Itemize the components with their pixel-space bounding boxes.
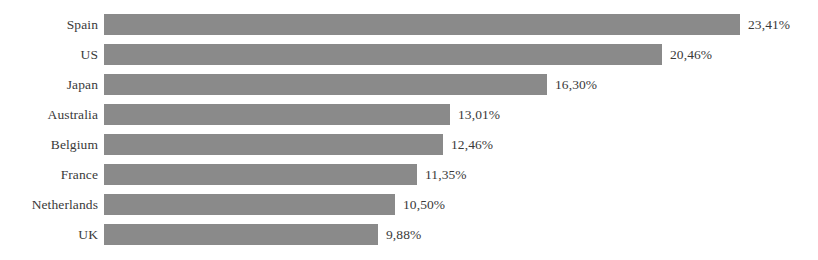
category-label-netherlands: Netherlands: [0, 194, 98, 215]
value-label-us: 20,46%: [670, 44, 712, 65]
value-label-netherlands: 10,50%: [403, 194, 445, 215]
bar-track: [104, 194, 395, 215]
bar-track: [104, 164, 417, 185]
bar-japan: [104, 74, 547, 95]
bar-row: UK9,88%: [0, 224, 818, 245]
value-label-france: 11,35%: [425, 164, 467, 185]
bar-france: [104, 164, 417, 185]
bar-spain: [104, 14, 740, 35]
bar-us: [104, 44, 662, 65]
bar-track: [104, 134, 443, 155]
bar-chart: Spain23,41%US20,46%Japan16,30%Australia1…: [0, 0, 818, 260]
bar-australia: [104, 104, 450, 125]
value-label-japan: 16,30%: [555, 74, 597, 95]
value-label-australia: 13,01%: [458, 104, 500, 125]
bar-row: Japan16,30%: [0, 74, 818, 95]
bar-track: [104, 74, 547, 95]
bar-row: Australia13,01%: [0, 104, 818, 125]
bar-track: [104, 14, 740, 35]
bar-uk: [104, 224, 378, 245]
bar-track: [104, 44, 662, 65]
category-label-spain: Spain: [0, 14, 98, 35]
category-label-uk: UK: [0, 224, 98, 245]
bar-row: US20,46%: [0, 44, 818, 65]
bar-belgium: [104, 134, 443, 155]
category-label-france: France: [0, 164, 98, 185]
bar-row: France11,35%: [0, 164, 818, 185]
bar-row: Belgium12,46%: [0, 134, 818, 155]
category-label-us: US: [0, 44, 98, 65]
bar-netherlands: [104, 194, 395, 215]
value-label-spain: 23,41%: [748, 14, 790, 35]
value-label-belgium: 12,46%: [451, 134, 493, 155]
bar-track: [104, 104, 450, 125]
category-label-belgium: Belgium: [0, 134, 98, 155]
bar-track: [104, 224, 378, 245]
category-label-japan: Japan: [0, 74, 98, 95]
bar-row: Netherlands10,50%: [0, 194, 818, 215]
bar-row: Spain23,41%: [0, 14, 818, 35]
value-label-uk: 9,88%: [386, 224, 421, 245]
category-label-australia: Australia: [0, 104, 98, 125]
